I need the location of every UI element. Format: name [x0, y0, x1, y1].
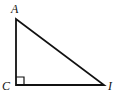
vertex-label-c: C [2, 79, 11, 93]
triangle [16, 19, 104, 85]
vertex-label-i: I [107, 79, 113, 93]
right-angle-marker [16, 77, 24, 85]
vertex-label-a: A [10, 2, 19, 16]
triangle-diagram: A C I [0, 0, 115, 98]
